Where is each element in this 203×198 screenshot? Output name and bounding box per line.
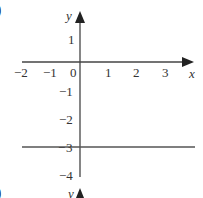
- y-axis-label: y: [64, 8, 72, 23]
- paren-top: ): [0, 1, 1, 19]
- paren-bottom: ): [0, 184, 1, 198]
- next-figure-y-arrow-icon: [76, 188, 84, 198]
- y-tick-minus-3-dash: −: [58, 140, 65, 155]
- y-tick-minus-2: −2: [59, 112, 73, 127]
- y-tick-minus-4: −4: [59, 168, 73, 183]
- y-axis-arrow-icon: [75, 11, 85, 23]
- coordinate-plane: ) ) y x −2 −1 0 1 2 3 1 −1 −2 − 3 −4 y: [0, 0, 203, 198]
- x-tick-minus-1: −1: [43, 65, 57, 80]
- y-tick-minus-3: 3: [66, 140, 73, 155]
- origin-label: 0: [70, 65, 77, 80]
- x-axis-label: x: [188, 66, 195, 81]
- x-tick-2: 2: [133, 65, 140, 80]
- y-tick-minus-1: −1: [59, 84, 73, 99]
- x-tick-1: 1: [105, 65, 112, 80]
- next-figure-y-label: y: [66, 186, 74, 198]
- x-tick-minus-2: −2: [14, 65, 28, 80]
- y-tick-1: 1: [68, 32, 75, 47]
- x-tick-3: 3: [162, 65, 169, 80]
